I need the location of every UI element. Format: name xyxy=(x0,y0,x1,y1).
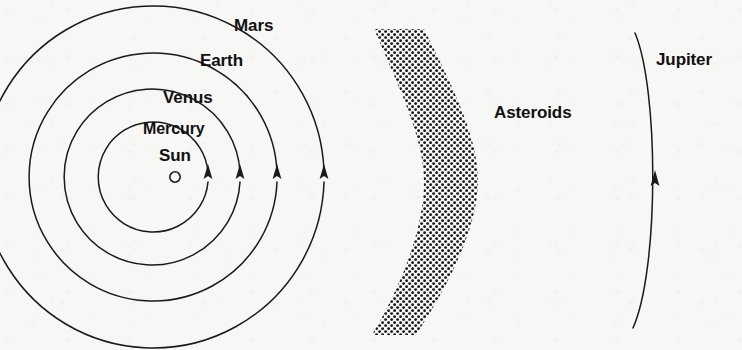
orbit-label-sun: Sun xyxy=(159,146,191,166)
orbit-arc-mercury xyxy=(98,122,208,232)
orbit-arc-earth xyxy=(29,53,277,301)
asteroid-belt-band xyxy=(372,29,478,335)
orbit-label-mars: Mars xyxy=(234,16,273,36)
asteroid-belt-label: Asteroids xyxy=(494,103,572,123)
orbit-label-jupiter: Jupiter xyxy=(656,50,712,70)
orbit-arrowhead-group xyxy=(204,164,329,179)
figure-page: Mars Earth Venus Mercury Sun Asteroids J… xyxy=(0,0,742,350)
sun-symbol xyxy=(170,172,180,182)
orbit-label-venus: Venus xyxy=(163,88,213,108)
arrowhead-jupiter xyxy=(651,170,660,186)
arrowhead-mars xyxy=(320,164,329,179)
arrowhead-venus xyxy=(236,164,245,179)
orbit-arc-jupiter xyxy=(633,33,653,328)
solar-system-diagram xyxy=(0,0,742,350)
arrowhead-mercury xyxy=(204,164,213,179)
arrowhead-earth xyxy=(273,164,282,179)
orbit-label-mercury: Mercury xyxy=(143,120,205,138)
orbit-arc-venus xyxy=(64,89,240,265)
orbit-label-earth: Earth xyxy=(200,51,243,71)
